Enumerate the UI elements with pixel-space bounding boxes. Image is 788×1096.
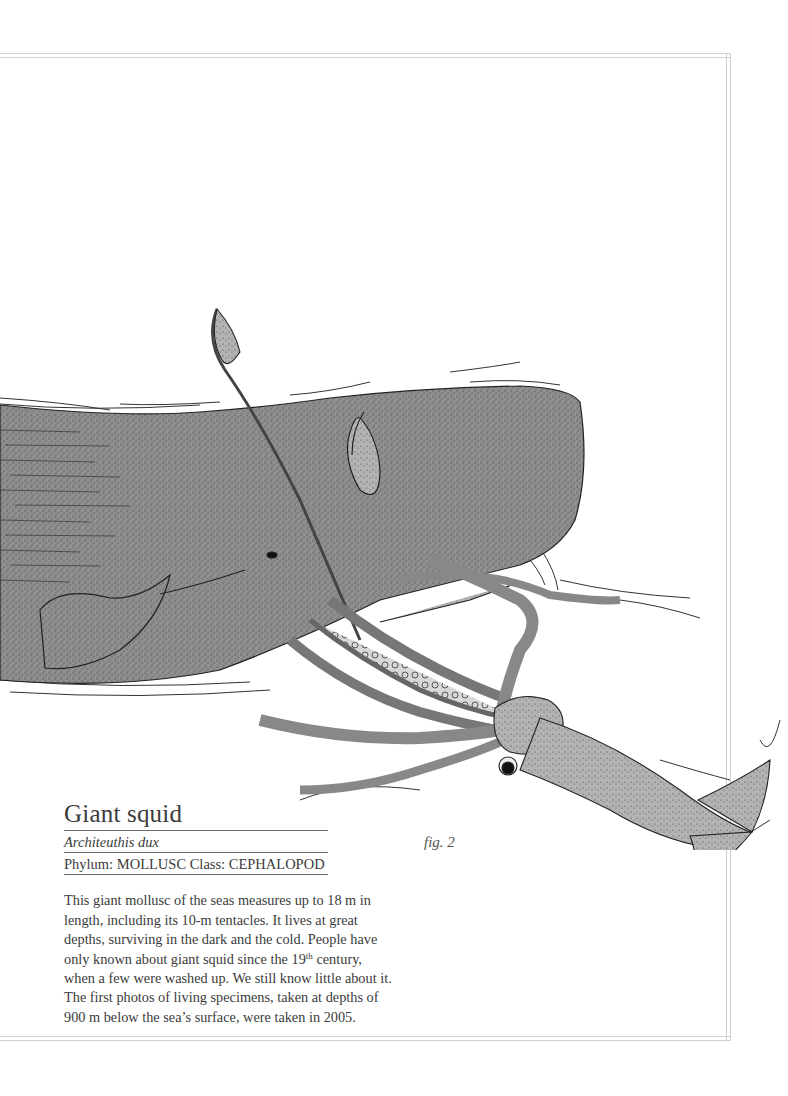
species-common-name: Giant squid [64, 800, 328, 831]
species-classification: Phylum: MOLLUSC Class: CEPHALOPOD [64, 853, 328, 875]
whale-and-squid-illustration [0, 290, 788, 850]
page-frame-top [0, 53, 731, 58]
species-scientific-name: Architeuthis dux [64, 831, 328, 853]
figure-label: fig. 2 [424, 834, 455, 851]
description-superscript: th [306, 951, 313, 961]
page-frame-bottom [0, 1036, 731, 1041]
species-description: This giant mollusc of the seas measures … [64, 891, 394, 1027]
species-caption: Giant squid Architeuthis dux Phylum: MOL… [64, 800, 328, 875]
